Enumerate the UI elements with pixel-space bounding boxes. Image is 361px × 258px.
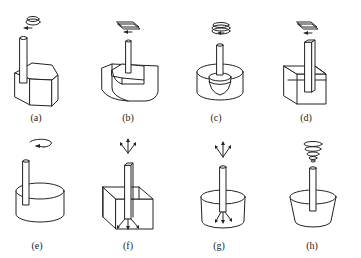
spiral-rotation-icon bbox=[212, 23, 230, 36]
figure-f-drawing bbox=[90, 129, 180, 258]
figure-g: (g) bbox=[180, 129, 270, 258]
figure-b: (b) bbox=[90, 0, 180, 129]
figure-a-drawing bbox=[0, 0, 90, 129]
figure-c: (c) bbox=[180, 0, 270, 129]
figure-d: (d) bbox=[270, 0, 361, 129]
figure-label: (f) bbox=[113, 240, 143, 251]
figure-c-drawing bbox=[180, 0, 270, 129]
figure-label: (a) bbox=[21, 112, 51, 123]
diverging-arrows-icon bbox=[215, 141, 231, 157]
figure-h-drawing bbox=[270, 129, 361, 258]
figure-label: (d) bbox=[291, 112, 321, 123]
figure-d-drawing bbox=[270, 0, 361, 129]
figure-f: (f) bbox=[90, 129, 180, 258]
figure-label: (c) bbox=[201, 112, 231, 123]
figure-e-drawing bbox=[0, 129, 90, 258]
figure-g-drawing bbox=[180, 129, 270, 258]
figure-e: (e) bbox=[0, 129, 90, 258]
figure-h: (h) bbox=[270, 129, 361, 258]
figure-label: (g) bbox=[204, 240, 234, 251]
figure-a: (a) bbox=[0, 0, 90, 129]
figure-label: (h) bbox=[297, 240, 327, 251]
rotation-arrow-icon bbox=[30, 139, 51, 147]
diverging-arrows-icon bbox=[120, 138, 136, 153]
figure-label: (e) bbox=[22, 240, 52, 251]
figure-label: (b) bbox=[113, 112, 143, 123]
spiral-funnel-icon bbox=[304, 142, 322, 163]
figure-b-drawing bbox=[90, 0, 180, 129]
